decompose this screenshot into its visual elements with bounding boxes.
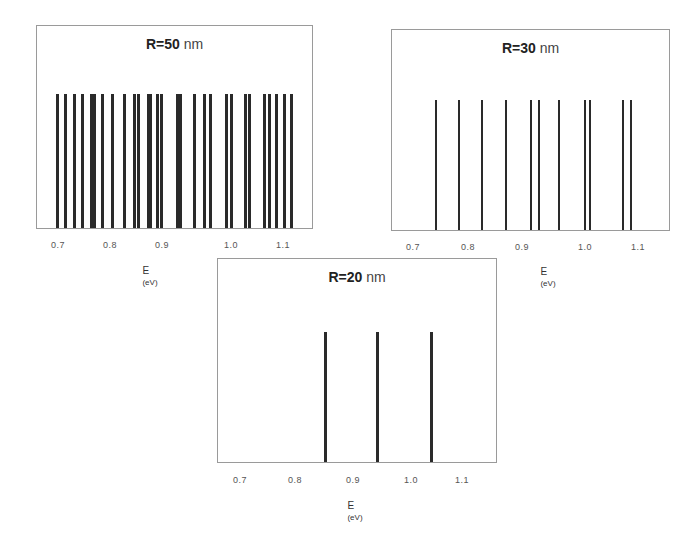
energy-level-bar (263, 94, 266, 228)
plot-area-r50: R=50 nm (36, 25, 313, 229)
energy-level-bar (530, 100, 532, 230)
x-axis-label-r20: E (eV) (347, 500, 362, 522)
energy-level-bar (248, 94, 251, 228)
energy-level-bar (630, 100, 632, 230)
xlabel-unit: (eV) (347, 513, 362, 522)
tick-label: 0.7 (406, 242, 420, 252)
title-unit: nm (180, 36, 203, 52)
tick-label: 0.9 (155, 240, 169, 250)
tick-label: 0.7 (51, 240, 65, 250)
energy-level-bar (64, 94, 67, 228)
energy-level-bar (505, 100, 507, 230)
xlabel-unit: (eV) (142, 278, 157, 287)
energy-level-bar (435, 100, 437, 230)
tick-label: 0.8 (288, 475, 302, 485)
x-axis-label-r30: E (eV) (540, 266, 555, 288)
energy-level-bar (268, 94, 271, 228)
tick-label: 1.0 (404, 475, 418, 485)
energy-level-bar (179, 94, 182, 228)
xlabel-text: E (142, 265, 149, 276)
energy-level-bar (589, 100, 591, 230)
tick-label: 1.0 (578, 242, 592, 252)
energy-level-bar (275, 94, 278, 228)
energy-level-bar (430, 332, 433, 462)
title-radius: R=20 (328, 269, 362, 285)
energy-level-bar (156, 94, 159, 228)
energy-level-bar (93, 94, 96, 228)
energy-level-bar (324, 332, 327, 462)
x-axis-label-r50: E (eV) (142, 265, 157, 287)
energy-level-bar (283, 94, 286, 228)
energy-level-bar (123, 94, 126, 228)
tick-label: 0.7 (233, 475, 247, 485)
energy-level-bar (225, 94, 228, 228)
tick-label: 0.9 (515, 242, 529, 252)
energy-level-bar (538, 100, 540, 230)
title-unit: nm (362, 269, 385, 285)
energy-level-bar (137, 94, 140, 228)
title-radius: R=50 (146, 36, 180, 52)
tick-label: 1.1 (455, 475, 469, 485)
energy-level-bar (376, 332, 379, 462)
plot-area-r30: R=30 nm (391, 29, 670, 231)
plot-title-r30: R=30 nm (392, 40, 669, 56)
tick-label: 0.8 (103, 240, 117, 250)
plot-title-r20: R=20 nm (218, 269, 496, 285)
xlabel-unit: (eV) (540, 279, 555, 288)
energy-level-bar (558, 100, 560, 230)
title-unit: nm (536, 40, 559, 56)
energy-level-bar (81, 94, 84, 228)
energy-level-bar (209, 94, 212, 228)
plot-area-r20: R=20 nm (217, 258, 497, 463)
energy-level-bar (111, 94, 114, 228)
energy-level-bar (101, 94, 104, 228)
title-radius: R=30 (502, 40, 536, 56)
tick-label: 0.8 (461, 242, 475, 252)
energy-level-bar (133, 94, 136, 228)
plot-title-r50: R=50 nm (37, 36, 312, 52)
energy-level-bar (244, 94, 247, 228)
energy-level-bar (458, 100, 460, 230)
energy-level-bar (622, 100, 624, 230)
tick-label: 0.9 (346, 475, 360, 485)
energy-level-bar (56, 94, 59, 228)
energy-level-bar (73, 94, 76, 228)
xlabel-text: E (540, 266, 547, 277)
energy-level-bar (481, 100, 483, 230)
energy-level-bar (193, 94, 196, 228)
energy-level-bar (149, 94, 152, 228)
energy-level-bar (230, 94, 233, 228)
energy-level-bar (290, 94, 293, 228)
energy-level-bar (160, 94, 163, 228)
tick-label: 1.1 (276, 240, 290, 250)
energy-level-bar (584, 100, 586, 230)
energy-level-bar (203, 94, 206, 228)
tick-label: 1.0 (224, 240, 238, 250)
xlabel-text: E (347, 500, 354, 511)
tick-label: 1.1 (631, 242, 645, 252)
